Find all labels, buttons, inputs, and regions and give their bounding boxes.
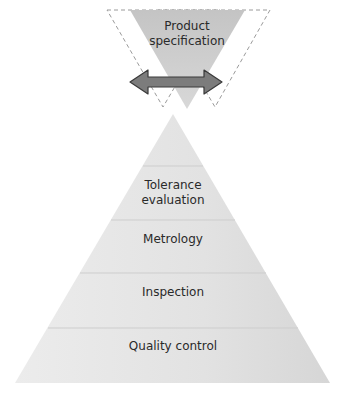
level-tolerance-line2: evaluation bbox=[141, 193, 204, 207]
level-metrology: Metrology bbox=[143, 232, 203, 246]
level-quality-control: Quality control bbox=[129, 339, 217, 353]
level-inspection: Inspection bbox=[142, 285, 204, 299]
spec-label-line2: specification bbox=[149, 34, 225, 48]
spec-label-line1: Product bbox=[164, 19, 210, 33]
level-tolerance-line1: Tolerance bbox=[143, 178, 201, 192]
diagram: Product specification Tolerance evaluati… bbox=[0, 0, 348, 401]
